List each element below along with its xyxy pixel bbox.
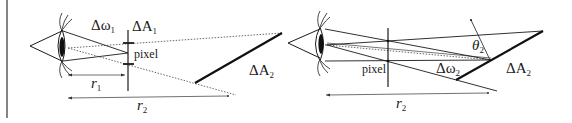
left-panel: Δω1 ΔA1 pixel ΔA2 r1 r2: [30, 13, 282, 115]
ray-top: [63, 31, 128, 53]
projection-line-top: [68, 33, 282, 48]
label-delta-omega-1: Δω1: [91, 17, 115, 35]
label-r2-right: r2: [396, 95, 406, 113]
label-theta-2: θ2: [472, 37, 484, 55]
eye-icon-right: [288, 11, 330, 76]
ray-center-upper: [327, 43, 491, 58]
right-panel: θ2 pixel Δω2 ΔA2 r2: [288, 11, 543, 113]
label-pixel-left: pixel: [134, 47, 159, 61]
label-delta-a-2-left: ΔA2: [249, 62, 274, 80]
r2-arrow-right: [326, 93, 488, 95]
r2-arrow-left: [68, 96, 228, 98]
ray-bottom: [63, 53, 128, 61]
ray-bottom-to-patch: [325, 60, 491, 61]
label-delta-a-1: ΔA1: [132, 18, 157, 36]
radiometry-diagram: Δω1 ΔA1 pixel ΔA2 r1 r2: [0, 0, 572, 123]
dotted-center-ray: [327, 45, 491, 60]
ray-top-to-patch: [325, 29, 491, 60]
eye-icon-left: [30, 13, 72, 78]
label-delta-omega-2: Δω2: [436, 60, 460, 78]
label-pixel-right: pixel: [362, 62, 387, 76]
label-r1: r1: [91, 75, 101, 93]
label-delta-a-2-right: ΔA2: [506, 60, 531, 78]
label-r2-left: r2: [137, 97, 147, 115]
ray-to-far-vertex: [325, 31, 543, 45]
